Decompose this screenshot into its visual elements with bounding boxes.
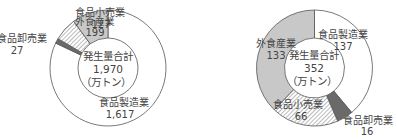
right-center-unit: （万トン） [287, 75, 337, 87]
right-label-restaurant-name: 外食産業 [256, 37, 296, 49]
right-label-retail-value: 66 [295, 111, 308, 122]
right-label-restaurant-value: 133 [266, 50, 285, 61]
donut-charts: 発生量合計 1,970 （万トン） 食品小売業 127 食品卸売業 27 外食産… [0, 0, 397, 140]
left-center-total: 1,970 [93, 63, 123, 75]
right-donut-chart: 発生量合計 352 （万トン） 食品製造業 137 外食産業 133 食品小売業… [256, 10, 393, 137]
left-label-wholesale-name: 食品卸売業 [0, 32, 47, 44]
left-label-restaurant-name: 外食産業 [75, 16, 115, 27]
left-donut-chart: 発生量合計 1,970 （万トン） 食品小売業 127 食品卸売業 27 外食産… [0, 6, 166, 126]
left-label-wholesale-value: 27 [11, 45, 24, 56]
right-label-manufacturing-value: 137 [333, 41, 352, 52]
right-label-wholesale-name: 食品卸売業 [343, 114, 393, 126]
left-center-unit: （万トン） [81, 76, 131, 88]
left-label-manufacturing-name: 食品製造業 [99, 96, 149, 108]
left-label-manufacturing-value: 1,617 [106, 109, 135, 120]
right-label-manufacturing-name: 食品製造業 [318, 28, 368, 40]
right-label-wholesale-value: 16 [361, 126, 374, 137]
left-center-title: 発生量合計 [83, 50, 134, 62]
right-center-total: 352 [304, 62, 324, 74]
left-label-restaurant-value: 199 [85, 27, 104, 38]
right-center-title: 発生量合計 [289, 49, 340, 61]
right-label-retail-name: 食品小売業 [273, 98, 323, 110]
